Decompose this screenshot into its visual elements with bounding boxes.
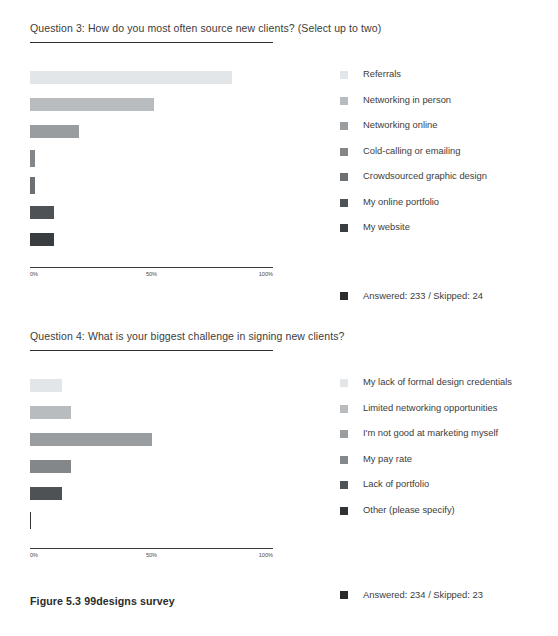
legend-swatch-icon xyxy=(340,173,348,181)
legend-item-label: Cold-calling or emailing xyxy=(363,144,460,157)
legend-item-label: Networking online xyxy=(363,118,438,131)
legend-swatch-icon xyxy=(340,481,348,489)
bar-row xyxy=(30,456,273,483)
legend-swatch-icon xyxy=(340,148,348,156)
x-axis-line xyxy=(30,548,273,549)
answered-swatch-icon xyxy=(340,292,348,300)
bar-row xyxy=(30,67,273,94)
x-axis-tick: 50% xyxy=(146,552,157,558)
legend-swatch-icon xyxy=(340,405,348,413)
legend-item-label: I'm not good at marketing myself xyxy=(363,426,498,439)
legend-item: Networking in person xyxy=(340,93,555,119)
legend-item-label: My pay rate xyxy=(363,452,412,465)
chart-legend-q4: My lack of formal design credentialsLimi… xyxy=(340,375,555,528)
legend-item: Limited networking opportunities xyxy=(340,401,555,427)
legend-swatch-icon xyxy=(340,507,348,515)
legend-item: My online portfolio xyxy=(340,195,555,221)
x-axis-tick: 100% xyxy=(259,271,273,277)
legend-item-label: Networking in person xyxy=(363,93,451,106)
bar-row xyxy=(30,375,273,402)
legend-item-label: Other (please specify) xyxy=(363,503,455,516)
legend-swatch-icon xyxy=(340,71,348,79)
x-axis-line xyxy=(30,267,273,268)
legend-item: Other (please specify) xyxy=(340,503,555,529)
question-title: Question 3: How do you most often source… xyxy=(30,22,381,34)
chart-legend-q3: ReferralsNetworking in personNetworking … xyxy=(340,67,555,246)
bar xyxy=(30,177,35,194)
x-axis-tick: 100% xyxy=(259,552,273,558)
question-underline xyxy=(30,350,273,351)
legend-item-label: Referrals xyxy=(363,67,401,80)
legend-item: Networking online xyxy=(340,118,555,144)
bar-row xyxy=(30,483,273,510)
bar xyxy=(30,379,62,392)
legend-item-label: My lack of formal design credentials xyxy=(363,375,512,388)
bar xyxy=(30,460,71,473)
bar xyxy=(30,433,152,446)
bar xyxy=(30,206,54,219)
legend-item-label: My website xyxy=(363,220,410,233)
legend-item: My pay rate xyxy=(340,452,555,478)
question-title: Question 4: What is your biggest challen… xyxy=(30,330,345,342)
legend-item: Cold-calling or emailing xyxy=(340,144,555,170)
answered-label: Answered: 233 / Skipped: 24 xyxy=(363,289,483,302)
legend-item: My lack of formal design credentials xyxy=(340,375,555,401)
bar-row xyxy=(30,402,273,429)
question-underline xyxy=(30,42,273,43)
legend-item-label: Limited networking opportunities xyxy=(363,401,497,414)
bar-chart-q4: 0%50%100% xyxy=(30,375,273,537)
legend-item: My website xyxy=(340,220,555,246)
legend-item: I'm not good at marketing myself xyxy=(340,426,555,452)
bar-row xyxy=(30,229,273,256)
legend-item: Crowdsourced graphic design xyxy=(340,169,555,195)
bar xyxy=(30,98,154,111)
legend-swatch-icon xyxy=(340,430,348,438)
x-axis-tick: 0% xyxy=(30,552,38,558)
legend-swatch-icon xyxy=(340,97,348,105)
bar xyxy=(30,125,79,138)
legend-swatch-icon xyxy=(340,456,348,464)
x-axis-tick: 50% xyxy=(146,271,157,277)
x-axis-tick-labels: 0%50%100% xyxy=(30,271,273,283)
bar xyxy=(30,487,62,500)
figure-caption: Figure 5.3 99designs survey xyxy=(30,595,175,607)
bar-row xyxy=(30,121,273,148)
bar xyxy=(30,406,71,419)
legend-swatch-icon xyxy=(340,379,348,387)
bar xyxy=(30,150,35,167)
legend-item-label: Crowdsourced graphic design xyxy=(363,169,487,182)
legend-swatch-icon xyxy=(340,224,348,232)
bar xyxy=(30,71,232,84)
legend-swatch-icon xyxy=(340,122,348,130)
bar-row xyxy=(30,202,273,229)
bar-chart-q3: 0%50%100% xyxy=(30,67,273,256)
bar xyxy=(30,512,31,529)
legend-item-label: Lack of portfolio xyxy=(363,477,429,490)
legend-item: Lack of portfolio xyxy=(340,477,555,503)
bar-row xyxy=(30,175,273,202)
answered-swatch-icon xyxy=(340,591,348,599)
bar xyxy=(30,233,54,246)
legend-item-label: My online portfolio xyxy=(363,195,439,208)
answered-label: Answered: 234 / Skipped: 23 xyxy=(363,588,483,601)
x-axis-tick: 0% xyxy=(30,271,38,277)
legend-swatch-icon xyxy=(340,199,348,207)
legend-item: Referrals xyxy=(340,67,555,93)
bar-row xyxy=(30,510,273,537)
x-axis-tick-labels: 0%50%100% xyxy=(30,552,273,564)
bar-row xyxy=(30,94,273,121)
bar-row xyxy=(30,148,273,175)
bar-row xyxy=(30,429,273,456)
